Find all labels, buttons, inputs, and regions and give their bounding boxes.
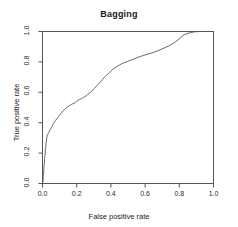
plot-frame: [43, 32, 214, 184]
roc-chart: Bagging 0.00.20.40.60.81.0 0.00.20.40.60…: [0, 0, 238, 227]
y-tick-label: 0.4: [22, 112, 29, 130]
x-axis-ticks: [43, 184, 214, 188]
y-axis-label: True positive rate: [12, 52, 21, 172]
x-axis-label: False positive rate: [0, 212, 238, 221]
roc-curve: [43, 32, 214, 184]
y-tick-label: 0.2: [22, 143, 29, 161]
y-axis-ticks: [39, 32, 43, 184]
x-tick-label: 0.4: [99, 190, 123, 197]
y-tick-label: 0.6: [22, 82, 29, 100]
y-tick-label: 0.0: [22, 173, 29, 191]
y-tick-label: 0.8: [22, 51, 29, 69]
x-tick-label: 0.2: [65, 190, 89, 197]
x-tick-label: 0.0: [31, 190, 55, 197]
y-tick-label: 1.0: [22, 21, 29, 39]
x-tick-label: 0.6: [133, 190, 157, 197]
x-tick-label: 0.8: [167, 190, 191, 197]
x-tick-label: 1.0: [202, 190, 226, 197]
